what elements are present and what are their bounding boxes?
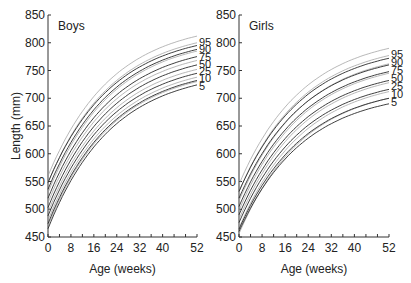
x-tick-label: 40	[156, 241, 170, 255]
x-tick-label: 24	[110, 241, 124, 255]
percentile-curve	[239, 98, 389, 229]
y-tick-label: 750	[25, 64, 45, 78]
percentile-curve	[48, 85, 197, 229]
y-tick-label: 800	[216, 36, 236, 50]
y-tick-label: 750	[216, 64, 236, 78]
x-tick-label: 16	[278, 241, 292, 255]
y-tick-label: 800	[25, 36, 45, 50]
percentile-label: 5	[199, 80, 205, 92]
percentile-label: 5	[391, 96, 397, 108]
x-axis-title: Age (weeks)	[89, 262, 156, 276]
x-tick-label: 32	[325, 241, 339, 255]
y-tick-label: 600	[216, 147, 236, 161]
percentile-curve	[48, 51, 197, 193]
y-tick-label: 700	[25, 91, 45, 105]
y-tick-label: 450	[216, 230, 236, 244]
growth-chart-figure: 450500550600650700750800850081624324052A…	[0, 0, 411, 283]
x-tick-label: 0	[45, 241, 52, 255]
y-tick-label: 700	[216, 91, 236, 105]
y-tick-label: 850	[216, 8, 236, 22]
percentile-curve	[239, 48, 389, 184]
x-tick-label: 32	[133, 241, 147, 255]
x-tick-label: 8	[68, 241, 75, 255]
x-tick-label: 0	[236, 241, 243, 255]
x-tick-label: 8	[259, 241, 266, 255]
x-tick-label: 16	[87, 241, 101, 255]
percentile-curve	[48, 73, 197, 216]
percentile-curve	[239, 64, 389, 201]
x-tick-label: 52	[382, 241, 396, 255]
x-tick-label: 40	[348, 241, 362, 255]
y-tick-label: 650	[216, 119, 236, 133]
panel-title: Boys	[58, 19, 85, 33]
x-axis-title: Age (weeks)	[281, 262, 348, 276]
boys-panel: 450500550600650700750800850081624324052A…	[25, 8, 211, 276]
y-tick-label: 850	[25, 8, 45, 22]
percentile-curve	[239, 104, 389, 232]
y-tick-label: 550	[216, 175, 236, 189]
y-tick-label: 550	[25, 175, 45, 189]
girls-panel: 450500550600650700750800850081624324052A…	[216, 8, 403, 276]
percentile-curve	[48, 69, 197, 212]
y-tick-label: 650	[25, 119, 45, 133]
x-tick-label: 52	[190, 241, 204, 255]
y-axis-title: Length (mm)	[9, 92, 23, 160]
y-tick-label: 500	[25, 202, 45, 216]
y-tick-label: 450	[25, 230, 45, 244]
panel-title: Girls	[249, 19, 274, 33]
y-tick-label: 500	[216, 202, 236, 216]
chart-canvas: 450500550600650700750800850081624324052A…	[0, 0, 411, 283]
y-tick-label: 600	[25, 147, 45, 161]
x-tick-label: 24	[302, 241, 316, 255]
